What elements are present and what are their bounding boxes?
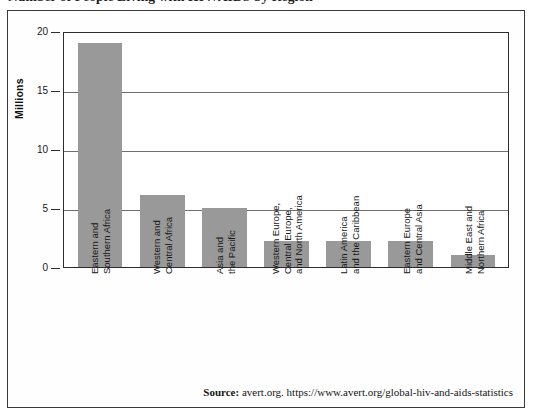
x-axis-category-line: Central Europe, [282,195,294,274]
x-axis-category: Eastern andSouthern Africa [68,270,130,378]
y-axis-tick-label: 15 [37,86,51,96]
x-axis-category: Asia andthe Pacific [193,270,255,378]
x-axis-category-line: Eastern Europe [401,204,413,274]
x-axis-category: Western Europe,Central Europe,and North … [255,270,317,378]
x-axis-category: Western andCentral Africa [130,270,192,378]
x-axis-category-line: Central Africa [163,217,175,274]
x-axis-category-line: Latin America [338,196,350,274]
y-axis-tick-mark [51,150,60,151]
y-axis-tick-mark [51,268,60,269]
x-axis-category-labels: Eastern andSouthern AfricaWestern andCen… [63,270,509,378]
x-axis-category-line: and North America [293,195,305,274]
x-axis-category: Middle East andNorthern Africa [443,270,505,378]
x-axis-category-line: Eastern and [89,209,101,274]
x-axis-category-label: Middle East andNorthern Africa [463,206,486,274]
x-axis-category: Eastern Europeand Central Asia [380,270,442,378]
y-axis-tick-label: 10 [37,145,51,155]
x-axis-category-line: Southern Africa [100,209,112,274]
figure-title: Number of People Living with HIV/AIDS by… [8,0,508,5]
source-label: Source: [203,386,239,398]
x-axis-category-line: the Pacific [225,230,237,274]
x-axis-category: Latin Americaand the Caribbean [318,270,380,378]
x-axis-category-line: Western and [151,217,163,274]
x-axis-category-label: Western Europe,Central Europe,and North … [270,195,305,274]
source-text: avert.org. https://www.avert.org/global-… [242,386,513,398]
x-axis-category-label: Latin Americaand the Caribbean [338,196,361,274]
x-axis-category-line: Northern Africa [475,206,487,274]
x-axis-category-label: Western andCentral Africa [151,217,174,274]
x-axis-category-line: Asia and [214,230,226,274]
y-axis-tick-mark [51,91,60,92]
x-axis-category-label: Eastern andSouthern Africa [89,209,112,274]
source-note: Source: avert.org. https://www.avert.org… [203,386,513,398]
y-axis-tick-mark [51,32,60,33]
y-axis-tick-label: 20 [37,27,51,37]
x-axis-category-label: Asia andthe Pacific [214,230,237,274]
y-axis-tick-mark [51,209,60,210]
y-axis: 05101520 [0,32,63,268]
chart-figure: Number of People Living with HIV/AIDS by… [0,0,533,418]
y-axis-tick-label: 5 [42,204,51,214]
x-axis-category-line: and Central Asia [412,204,424,274]
x-axis-category-line: Middle East and [463,206,475,274]
x-axis-category-line: and the Caribbean [350,196,362,274]
x-axis-category-label: Eastern Europeand Central Asia [401,204,424,274]
x-axis-category-line: Western Europe, [270,195,282,274]
y-axis-tick-label: 0 [42,263,51,273]
